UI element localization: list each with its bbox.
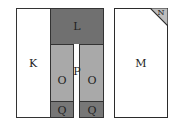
block-p (74, 44, 79, 118)
label-l: L (73, 21, 80, 32)
label-k: K (29, 58, 37, 69)
label-o-left: O (57, 75, 66, 86)
label-q-left: Q (57, 105, 66, 116)
label-n: N (158, 9, 165, 17)
label-o-right: O (87, 75, 96, 86)
label-m: M (135, 58, 146, 69)
label-q-right: Q (87, 105, 96, 116)
label-p: P (73, 66, 80, 77)
